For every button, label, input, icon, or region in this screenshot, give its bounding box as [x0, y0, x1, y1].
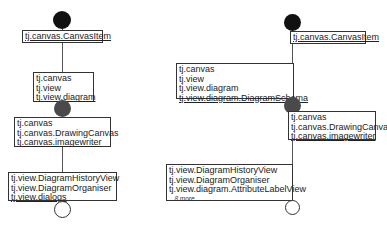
left-box-2[interactable]: tj.canvas tj.view tj.view.diagram — [33, 72, 94, 102]
right-box-1[interactable]: tj.canvas.CanvasItem — [290, 31, 366, 44]
package-label: tj.view.diagram.DiagramSchema — [179, 94, 291, 104]
left-box-3[interactable]: tj.canvas tj.canvas.DrawingCanvas tj.can… — [14, 117, 111, 147]
package-label: tj.canvas.CanvasItem — [25, 32, 100, 42]
left-mid-node[interactable] — [54, 100, 71, 117]
right-start-node[interactable] — [284, 14, 301, 31]
more-items-link[interactable]: ...8 more... — [169, 195, 290, 203]
right-box-3[interactable]: tj.canvas tj.canvas.DrawingCanvas tj.can… — [288, 111, 376, 140]
right-box-4[interactable]: tj.view.DiagramHistoryView tj.view.Diagr… — [166, 164, 293, 201]
left-box-1[interactable]: tj.canvas.CanvasItem — [22, 30, 103, 43]
left-start-node[interactable] — [53, 11, 71, 29]
right-end-node[interactable] — [285, 200, 300, 215]
package-label: tj.canvas.imagewriter — [291, 132, 373, 142]
package-label: tj.canvas.imagewriter — [17, 138, 108, 148]
right-box-2[interactable]: tj.canvas tj.view tj.view.diagram tj.vie… — [176, 63, 294, 99]
package-label: tj.canvas.CanvasItem — [293, 33, 363, 43]
left-end-node[interactable] — [54, 201, 71, 218]
package-label: tj.view.diagram.AttributeLabelView — [169, 185, 290, 195]
left-box-4[interactable]: tj.view.DiagramHistoryView tj.view.Diagr… — [8, 172, 117, 201]
